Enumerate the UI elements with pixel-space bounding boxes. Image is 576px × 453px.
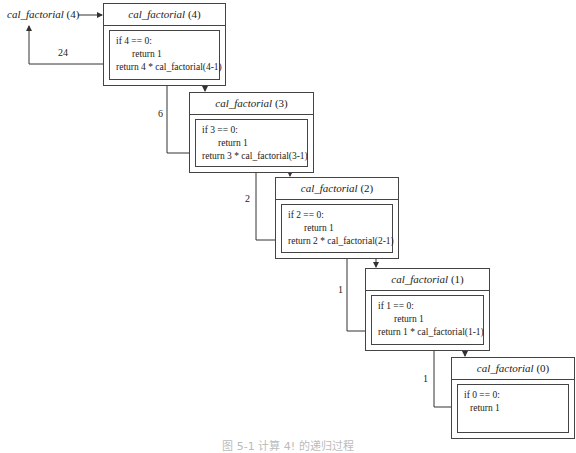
frame-header: cal_factorial (4) [104,4,225,26]
frame-body: if 2 == 0: return 1 return 2 * cal_facto… [281,204,393,253]
return-value-label: 1 [423,373,428,384]
frame-body: if 0 == 0: return 1 [457,384,569,433]
code-line: return 1 [218,138,248,149]
code-line: if 3 == 0: [202,125,238,136]
code-line: return 3 * cal_factorial(3-1) [202,151,308,162]
frame-func: cal_factorial [215,97,272,109]
frame-func: cal_factorial [128,8,185,20]
frame-arg: (1) [451,273,464,285]
code-line: return 1 [394,314,424,325]
entry-call-label: cal_factorial (4) [7,8,79,20]
frame-header: cal_factorial (1) [366,269,489,291]
call-frame: cal_factorial (3) if 3 == 0: return 1 re… [189,92,314,173]
code-line: return 1 [304,223,334,234]
frame-body: if 1 == 0: return 1 return 1 * cal_facto… [371,295,484,345]
code-line: return 1 [470,403,500,414]
code-line: return 4 * cal_factorial(4-1) [116,62,222,73]
frame-header: cal_factorial (0) [452,358,574,380]
call-frame: cal_factorial (0) if 0 == 0: return 1 [451,357,575,439]
frame-arg: (3) [275,97,288,109]
entry-arg: (4) [67,8,80,20]
return-value-label: 24 [58,47,68,58]
code-line: if 4 == 0: [116,36,152,47]
return-value-label: 2 [245,193,250,204]
code-line: return 1 * cal_factorial(1-1) [378,327,484,338]
frame-func: cal_factorial [301,182,358,194]
frame-header: cal_factorial (2) [276,178,398,200]
frame-header: cal_factorial (3) [190,93,313,115]
call-frame: cal_factorial (2) if 2 == 0: return 1 re… [275,177,399,259]
call-frame: cal_factorial (1) if 1 == 0: return 1 re… [365,268,490,351]
entry-func: cal_factorial [7,8,64,20]
code-line: if 2 == 0: [288,210,324,221]
figure-caption: 图 5-1 计算 4! 的递归过程 [0,437,576,453]
frame-arg: (0) [536,362,549,374]
frame-arg: (4) [188,8,201,20]
code-line: if 0 == 0: [464,390,500,401]
frame-func: cal_factorial [391,273,448,285]
frame-func: cal_factorial [477,362,534,374]
code-line: return 1 [132,49,162,60]
return-value-label: 1 [338,284,343,295]
frame-body: if 3 == 0: return 1 return 3 * cal_facto… [195,119,308,167]
frame-arg: (2) [360,182,373,194]
return-value-label: 6 [158,108,163,119]
code-line: if 1 == 0: [378,301,414,312]
call-frame: cal_factorial (4) if 4 == 0: return 1 re… [103,3,226,86]
code-line: return 2 * cal_factorial(2-1) [288,236,394,247]
frame-body: if 4 == 0: return 1 return 4 * cal_facto… [109,30,220,80]
